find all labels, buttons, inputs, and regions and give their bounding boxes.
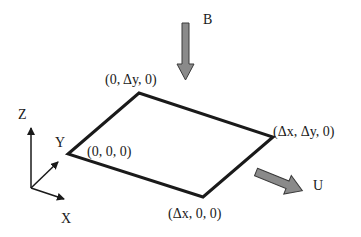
u-velocity-label: U (313, 179, 323, 193)
x-axis-label: X (61, 212, 71, 226)
u-velocity-arrow-icon (252, 163, 306, 200)
vertex-label-x-corner: (Δx, 0, 0) (168, 207, 221, 221)
vertex-label-xy-corner: (Δx, Δy, 0) (273, 125, 334, 139)
b-field-arrow-icon (177, 23, 194, 80)
x-axis (31, 188, 64, 199)
vertex-label-origin: (0, 0, 0) (87, 145, 131, 159)
plate-diagram: (0, 0, 0) (0, Δy, 0) (Δx, Δy, 0) (Δx, 0,… (0, 0, 361, 237)
diagram-canvas (0, 0, 361, 237)
b-field-label: B (203, 13, 212, 27)
vertex-label-y-corner: (0, Δy, 0) (105, 73, 157, 87)
z-axis-label: Z (18, 108, 27, 122)
y-axis-label: Y (55, 136, 65, 150)
y-axis (31, 162, 58, 188)
